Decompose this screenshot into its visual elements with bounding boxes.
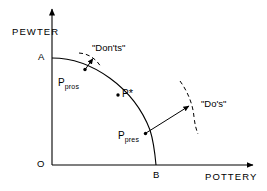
ppf-curve — [52, 58, 156, 165]
prospective-point-letter: P — [58, 77, 65, 88]
x-axis-title: POTTERY — [205, 172, 257, 182]
dos-dashed-arc — [180, 81, 198, 134]
prospective-point-subscript: pros — [65, 83, 79, 90]
present-point-dot — [144, 132, 147, 135]
donts-dashed-arc — [79, 53, 101, 67]
y-axis-title: PEWTER — [12, 27, 59, 37]
prospective-point-dot — [83, 68, 86, 71]
x-intercept-label-b: B — [153, 170, 159, 180]
dos-label: "Do's" — [201, 99, 226, 109]
present-point-label: Ppres — [118, 131, 139, 143]
ppf-diagram: PEWTER POTTERY O A B Ppros P* Ppres "Don… — [0, 0, 267, 191]
optimum-point-label: P* — [122, 88, 133, 99]
optimum-point-letter: P — [122, 88, 129, 99]
optimum-point-dot — [116, 93, 119, 96]
present-point-letter: P — [118, 130, 125, 141]
donts-label: "Don'ts" — [92, 43, 125, 53]
present-point-subscript: pres — [125, 136, 139, 143]
optimum-point-star: * — [129, 87, 133, 99]
prospective-point-label: Ppros — [58, 78, 79, 90]
origin-label: O — [37, 159, 44, 169]
dos-arrow — [146, 106, 189, 133]
y-intercept-label-a: A — [38, 52, 44, 62]
